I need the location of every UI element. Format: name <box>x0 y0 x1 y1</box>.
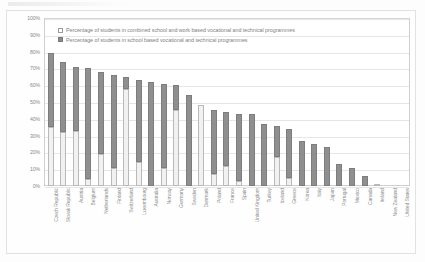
bar-column[interactable] <box>60 62 66 186</box>
legend-label-school-based: Percentage of students in school based v… <box>66 37 248 43</box>
x-axis-tick-label: Turkey <box>266 188 272 203</box>
bar-segment-school-based <box>161 84 167 168</box>
bar-column[interactable] <box>374 184 380 186</box>
bar-segment-combined <box>223 166 229 186</box>
bar-segment-combined <box>173 110 179 186</box>
bar-segment-combined <box>274 157 280 186</box>
x-axis-tick-label: Luxembourg <box>141 188 147 215</box>
bar-column[interactable] <box>173 85 179 186</box>
y-axis-tick-label: 10% <box>30 166 40 172</box>
bar-segment-school-based <box>311 144 317 186</box>
x-axis-tick-label: Switzerland <box>128 188 134 213</box>
bar-segment-combined <box>60 132 66 186</box>
x-axis-tick-label: Spain <box>241 188 247 200</box>
legend-label-combined: Percentage of students in combined schoo… <box>66 27 295 33</box>
bar-segment-school-based <box>98 72 104 154</box>
x-axis-tick-label: Netherlands <box>103 188 109 214</box>
bar-segment-combined <box>73 131 79 186</box>
bar-segment-school-based <box>85 68 91 179</box>
x-axis-tick-label: Greece <box>291 188 297 204</box>
bar-column[interactable] <box>136 80 142 186</box>
bar-segment-school-based <box>136 80 142 162</box>
x-axis-tick-label: Czech Republic <box>53 188 59 222</box>
bar-segment-school-based <box>73 67 79 131</box>
bar-column[interactable] <box>324 147 330 186</box>
y-axis-tick-label: 100% <box>27 15 40 21</box>
bar-column[interactable] <box>249 114 255 186</box>
y-axis-tick-label: 0% <box>33 183 40 189</box>
bar-column[interactable] <box>336 164 342 186</box>
x-axis-tick-label: France <box>229 188 235 203</box>
x-axis-tick-label: Iceland <box>279 188 285 203</box>
x-axis-tick-label: Mexico <box>354 188 360 203</box>
y-axis-tick-label: 60% <box>30 82 40 88</box>
bar-column[interactable] <box>73 67 79 186</box>
bar-column[interactable] <box>123 77 129 186</box>
bar-column[interactable] <box>111 75 117 186</box>
bar-column[interactable] <box>48 53 54 186</box>
x-axis-tick-label: Ireland <box>379 188 385 203</box>
bar-column[interactable] <box>362 176 368 186</box>
x-axis-tick-label: Australia <box>153 188 159 207</box>
x-axis-tick-label: Belgium <box>90 188 96 205</box>
bar-segment-combined <box>123 89 129 186</box>
bar-column[interactable] <box>274 126 280 186</box>
bar-segment-combined <box>48 127 54 186</box>
bar-column[interactable] <box>223 112 229 186</box>
x-axis-tick-label: Korea <box>304 188 310 201</box>
bar-column[interactable] <box>261 124 267 186</box>
x-axis-tick-label: Japan <box>329 188 335 201</box>
y-axis-labels: 100%90%80%70%60%50%40%30%20%10%0% <box>4 18 42 186</box>
bar-segment-combined <box>374 184 380 186</box>
bar-segment-school-based <box>111 75 117 167</box>
legend-item-combined: Percentage of students in combined schoo… <box>58 27 388 33</box>
bar-column[interactable] <box>211 110 217 186</box>
bar-segment-school-based <box>148 82 154 186</box>
bar-segment-school-based <box>286 129 292 178</box>
y-axis-tick-label: 90% <box>30 32 40 38</box>
x-axis-tick-label: Italy <box>316 188 322 197</box>
x-axis-tick-label: United Kingdom <box>254 188 260 222</box>
bar-segment-school-based <box>223 112 229 166</box>
x-axis-tick-label: New Zealand <box>392 188 398 216</box>
x-axis-tick-label: Canada <box>367 188 373 205</box>
dark-square-marker-icon <box>58 37 63 42</box>
bar-column[interactable] <box>148 82 154 186</box>
bar-segment-combined <box>85 179 91 186</box>
bar-segment-combined <box>161 168 167 186</box>
bar-segment-combined <box>236 181 242 186</box>
y-axis-tick-label: 30% <box>30 133 40 139</box>
x-axis-tick-label: Finland <box>116 188 122 204</box>
bar-segment-school-based <box>48 53 54 127</box>
bar-segment-combined <box>211 174 217 186</box>
bar-segment-school-based <box>173 85 179 110</box>
bar-column[interactable] <box>286 129 292 186</box>
bar-column[interactable] <box>186 95 192 186</box>
x-axis-tick-label: Poland <box>216 188 222 203</box>
bar-segment-combined <box>198 105 204 186</box>
scan-artifact <box>8 2 128 6</box>
bar-segment-school-based <box>362 176 368 186</box>
bar-column[interactable] <box>198 105 204 186</box>
y-axis-tick-label: 50% <box>30 99 40 105</box>
x-axis-tick-label: Slovak Republic <box>65 188 71 222</box>
bar-column[interactable] <box>85 68 91 186</box>
bar-segment-school-based <box>336 164 342 186</box>
bar-column[interactable] <box>299 141 305 186</box>
bar-column[interactable] <box>349 168 355 186</box>
legend-item-school-based: Percentage of students in school based v… <box>58 37 388 43</box>
bar-segment-school-based <box>299 141 305 186</box>
bar-segment-school-based <box>274 126 280 158</box>
bar-column[interactable] <box>161 84 167 186</box>
bar-segment-school-based <box>60 62 66 133</box>
bar-column[interactable] <box>311 144 317 186</box>
chart-legend: Percentage of students in combined schoo… <box>58 27 388 46</box>
y-axis-tick-label: 80% <box>30 49 40 55</box>
y-axis-tick-label: 70% <box>30 65 40 71</box>
x-axis-tick-label: Sweden <box>191 188 197 205</box>
bar-segment-school-based <box>349 168 355 186</box>
bar-segment-school-based <box>249 114 255 186</box>
bar-column[interactable] <box>236 114 242 186</box>
bar-column[interactable] <box>98 72 104 186</box>
bar-segment-school-based <box>324 147 330 186</box>
